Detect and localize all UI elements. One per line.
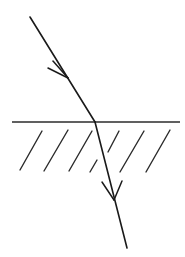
refraction-diagram [0,0,185,257]
figure-background [0,0,185,257]
refraction-canvas [0,0,185,257]
